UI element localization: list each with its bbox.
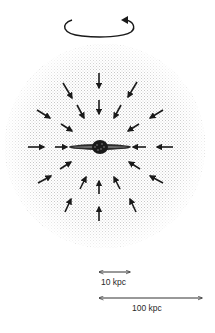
- scale-label-10kpc: 10 kpc: [101, 277, 126, 287]
- scale-label-100kpc: 100 kpc: [132, 303, 162, 313]
- galaxy-infall-diagram: 10 kpc 100 kpc: [0, 0, 215, 333]
- rotation-arrow-icon: [65, 16, 134, 37]
